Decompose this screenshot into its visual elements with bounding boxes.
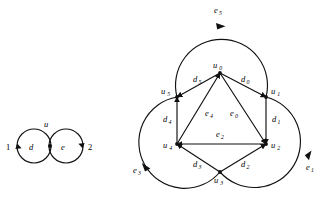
left-vertex-label-u: u [44,119,48,129]
right-edge-label-e2-base: e [216,129,220,139]
right-edge-label-d3-sub: 3 [198,164,202,170]
right-vertex-label-u4: u 4 [163,140,172,151]
right-vertex-label-u1: u 1 [271,86,280,97]
right-edge-label-d1-sub: 1 [278,119,281,125]
right-edge-label-d0-sub: 0 [247,79,250,85]
right-arc-label-e3: e 3 [133,165,141,176]
right-arc-label-e5: e 5 [214,5,222,16]
right-arc-label-e1-base: e [306,162,310,172]
right-vertex-label-u3-sub: 3 [219,180,223,186]
right-vertex-label-u0-sub: 0 [219,65,222,71]
left-outer-label-2: 2 [88,142,92,152]
right-edge-label-e4-sub: 4 [210,113,213,119]
right-arc-label-e5-base: e [214,5,218,15]
right-arc-label-e1: e 1 [306,162,314,173]
right-edge-label-d2-base: d [241,159,246,169]
right-vertex-label-u3: u 3 [214,175,223,186]
right-vertex-label-u5-sub: 5 [167,91,170,97]
right-edge-label-e2-sub: 2 [221,134,224,140]
right-edge-label-e4-base: e [205,108,209,118]
right-vertex-label-u0-base: u [213,60,217,70]
right-edge-label-d5-base: d [193,74,198,84]
left-diagram: u d e 1 2 [6,119,92,163]
left-loop-e [49,129,83,163]
right-vertex-label-u2: u 2 [271,140,280,151]
right-arc-e1-arrowhead [305,151,312,161]
right-edge-label-d4-base: d [163,114,168,124]
right-vertex-label-u0: u 0 [213,60,222,71]
right-edge-label-d1: d 1 [272,114,281,125]
left-loop-d-arrowhead [15,144,21,150]
right-edge-label-e0-base: e [230,108,234,118]
right-vertex-label-u1-base: u [271,86,275,96]
right-vertex-u5-dot [175,95,179,99]
right-edge-label-e0: e 0 [230,108,238,119]
diagram-canvas: u d e 1 2 [0,0,323,203]
right-vertex-label-u1-sub: 1 [277,91,280,97]
right-edge-label-d5-sub: 5 [199,79,202,85]
right-edge-label-d4-sub: 4 [169,119,172,125]
right-edge-label-d3-base: d [193,159,198,169]
right-vertex-u2-dot [264,142,268,146]
figure-root: u d e 1 2 [0,0,323,203]
right-vertex-label-u4-base: u [163,140,167,150]
left-edge-label-d: d [29,142,34,152]
right-arc-label-e1-sub: 1 [311,167,314,173]
right-edge-d5 [177,73,220,97]
right-edge-label-e0-sub: 0 [235,113,238,119]
left-outer-label-1: 1 [6,142,10,152]
left-loop-d [17,129,51,163]
right-edge-label-e4: e 4 [205,108,213,119]
right-arc-label-e3-base: e [133,165,137,175]
right-arc-label-e3-sub: 3 [137,170,141,176]
right-edge-label-d3: d 3 [193,159,202,170]
left-vertex-u-dot [48,144,52,148]
right-edge-label-d0-base: d [241,74,246,84]
right-vertex-label-u2-base: u [271,140,275,150]
right-edge-label-d0: d 0 [241,74,250,85]
left-edge-label-e: e [61,142,65,152]
right-vertex-u4-dot [175,142,179,146]
right-vertex-label-u5-base: u [161,86,165,96]
right-arc-e5-arrowhead [216,23,226,30]
right-diagram: u 0 u 1 u 2 u 3 u 4 u 5 [133,5,314,188]
right-vertex-label-u4-sub: 4 [169,145,172,151]
right-arc-label-e5-sub: 5 [219,10,222,16]
left-loop-e-arrowhead [78,143,84,149]
right-edge-label-d5: d 5 [193,74,202,85]
right-vertex-u1-dot [264,95,268,99]
right-edge-label-d2-sub: 2 [247,164,250,170]
right-edge-label-d2: d 2 [241,159,250,170]
right-edge-label-d1-base: d [272,114,277,124]
right-edge-label-d4: d 4 [163,114,172,125]
right-vertex-label-u2-sub: 2 [277,145,280,151]
right-arc-e3-arrowhead [142,163,151,172]
right-edge-label-e2: e 2 [216,129,224,140]
right-vertex-u0-dot [218,71,222,75]
right-vertex-label-u3-base: u [214,175,218,185]
right-vertex-label-u5: u 5 [161,86,170,97]
right-vertex-u3-dot [218,170,222,174]
